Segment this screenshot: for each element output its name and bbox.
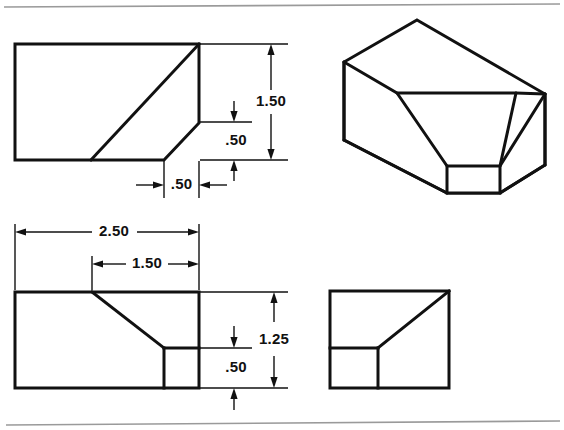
iso-body-silhouette — [344, 20, 545, 193]
isometric-pictorial-view — [344, 20, 545, 193]
arrowhead-0-50-h-right — [199, 181, 210, 188]
arrowhead-0-50-depth-down — [230, 337, 237, 348]
bottom-horizontal-rule — [6, 421, 560, 425]
dim-text-2-50: 2.50 — [99, 222, 129, 239]
arrowhead-1-50-h-left — [92, 260, 103, 267]
dim-text-1-25: 1.25 — [259, 330, 289, 347]
top-view-outline — [15, 292, 199, 388]
arrowhead-2-50-left — [15, 228, 26, 235]
front-view-incline-edge — [91, 44, 199, 160]
arrowhead-0-50-h-left — [153, 181, 164, 188]
arrowhead-1-25-top — [270, 292, 277, 303]
dim-text-1-50-vertical: 1.50 — [256, 92, 286, 109]
arrowhead-2-50-right — [188, 228, 199, 235]
arrowhead-0-50-depth-up — [230, 388, 237, 399]
technical-drawing-canvas: 1.50 .50 .50 — [0, 0, 564, 430]
arrowhead-1-25-bottom — [270, 377, 277, 388]
dim-text-0-50-horizontal: .50 — [171, 175, 192, 192]
top-view — [15, 292, 199, 388]
front-view — [15, 44, 199, 160]
iso-pocket-floor-rect — [447, 166, 500, 193]
top-view-incline-edge — [92, 292, 164, 348]
arrowhead-1-50-bottom — [267, 149, 274, 160]
arrowhead-0-50-down — [230, 111, 237, 122]
side-view — [330, 291, 449, 388]
arrowhead-1-50-top — [267, 44, 274, 55]
top-horizontal-rule — [4, 4, 560, 7]
arrowhead-0-50-up — [230, 160, 237, 171]
side-view-incline-edge — [378, 291, 449, 348]
dim-text-1-50-horizontal: 1.50 — [132, 254, 162, 271]
dim-text-0-50-vertical: .50 — [225, 131, 246, 148]
drawing-sheet: 1.50 .50 .50 — [0, 0, 564, 430]
arrowhead-1-50-h-right — [188, 260, 199, 267]
dim-text-0-50-depth: .50 — [225, 358, 246, 375]
top-view-dimensions: 2.50 1.50 1.25 .50 — [15, 222, 289, 410]
front-view-dimensions: 1.50 .50 .50 — [136, 44, 288, 198]
